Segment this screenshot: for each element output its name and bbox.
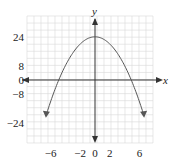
y-axis-label: y [91,5,97,17]
x-tick-label: 6 [137,147,143,159]
curve-left-arrow-icon [43,111,50,118]
y-tick-label: 0 [19,74,25,86]
x-tick-label: −6 [45,147,57,159]
x-tick-label: −2 [74,147,86,159]
y-tick-label: −8 [12,88,24,100]
x-tick-label: 2 [107,147,113,159]
x-tick-label: 0 [92,147,98,159]
parabola-graph: xy 2480−8−24−6−2026 [0,0,174,165]
x-axis-label: x [162,74,168,86]
x-axis-right-arrow-icon [156,77,163,83]
y-tick-label: 24 [13,31,25,43]
y-tick-label: −24 [7,117,25,129]
y-tick-label: 8 [19,60,25,72]
